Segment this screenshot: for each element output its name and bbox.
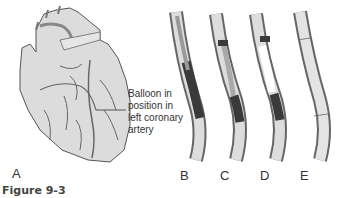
panel-label-a: A xyxy=(12,166,21,181)
panel-b-vessel xyxy=(176,12,200,160)
panel-c-vessel xyxy=(216,14,240,160)
callout-line: position in xyxy=(128,100,183,112)
callout-line: artery xyxy=(128,124,183,136)
panel-label-d: D xyxy=(260,168,269,183)
panel-e-vessel xyxy=(298,12,328,160)
heart-illustration xyxy=(20,6,130,162)
callout-line: Balloon in xyxy=(128,88,183,100)
balloon-callout: Balloon in position in left coronary art… xyxy=(128,88,183,136)
panel-label-b: B xyxy=(180,168,189,183)
panel-label-c: C xyxy=(220,168,229,183)
panel-label-e: E xyxy=(300,168,309,183)
figure-caption: Figure 9-3 xyxy=(2,184,66,197)
panel-d-vessel xyxy=(256,14,280,160)
callout-line: left coronary xyxy=(128,112,183,124)
